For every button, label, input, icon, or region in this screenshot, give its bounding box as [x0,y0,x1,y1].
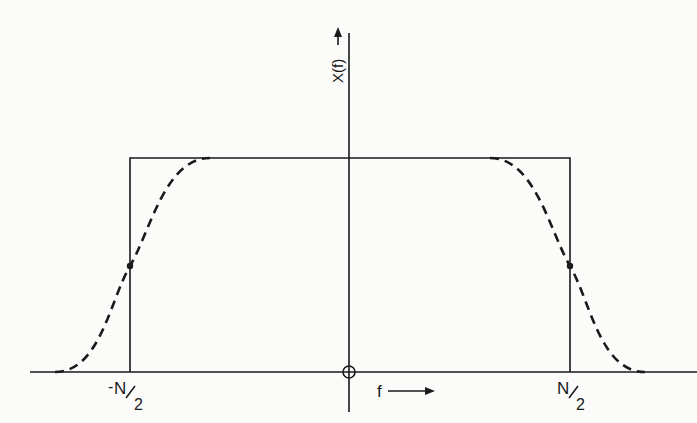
diagram-canvas: X(f) f - N 2 N 2 [0,0,697,423]
x-axis-label: f [377,382,382,401]
y-axis-label-group: X(f) [329,59,346,83]
left-edge-sign: - [108,378,113,395]
right-edge-den: 2 [576,396,585,413]
left-edge-den: 2 [134,396,143,413]
y-axis-label: X(f) [329,59,346,83]
y-axis-arrow-icon [334,27,342,37]
right-edge-num: N [557,379,569,398]
half-point-left [127,263,133,269]
left-edge-num: N [114,379,126,398]
x-axis-arrow-icon [425,387,435,395]
ideal-rect-spectrum [130,158,570,372]
spectrum-diagram: X(f) f - N 2 N 2 [0,0,697,423]
half-point-right [567,263,573,269]
